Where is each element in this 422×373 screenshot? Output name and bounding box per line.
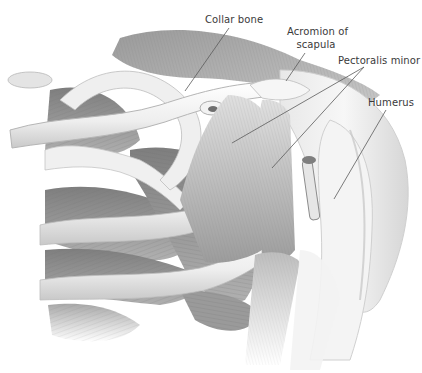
label-acromion-of-scapula: Acromion of scapula (287, 25, 345, 51)
label-collar-bone: Collar bone (205, 13, 263, 26)
label-pectoralis-minor: Pectoralis minor (338, 54, 420, 67)
label-acromion-line2: scapula (287, 38, 345, 51)
label-humerus: Humerus (368, 96, 414, 109)
label-acromion-line1: Acromion of (287, 25, 345, 38)
shoulder-anatomy-diagram: Collar bone Acromion of scapula Pectoral… (0, 0, 422, 373)
